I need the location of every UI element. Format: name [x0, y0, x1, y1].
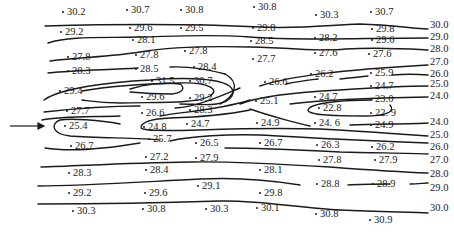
point-value: 27.7 — [71, 105, 89, 116]
data-point: 27.9 — [195, 153, 218, 164]
point-value: 24.8 — [148, 121, 166, 132]
point-marker-icon — [205, 208, 207, 210]
point-value: 30.8 — [147, 203, 165, 214]
contour-level-label: 24.0 — [430, 91, 448, 102]
point-value: 29.1 — [202, 180, 220, 191]
data-point: 29.4 — [59, 86, 82, 97]
point-value: 23.0 — [375, 93, 393, 104]
data-point: 29.8 — [371, 24, 394, 35]
point-value: 30.7 — [131, 4, 149, 15]
point-value: 29.6 — [134, 22, 152, 33]
point-value: 29.8 — [257, 22, 275, 33]
point-value: 29.6 — [376, 34, 394, 45]
point-marker-icon — [371, 146, 373, 148]
data-point: 30.8 — [315, 209, 338, 220]
point-value: 24.7 — [375, 80, 393, 91]
point-value: 29.2 — [65, 26, 83, 37]
point-marker-icon — [314, 96, 316, 98]
point-value: 28.4 — [198, 61, 216, 72]
point-value: 22. 9 — [375, 107, 396, 118]
point-marker-icon — [252, 58, 254, 60]
data-point: 26.3 — [316, 140, 339, 151]
point-value: 30.8 — [320, 208, 338, 219]
data-point: 29.1 — [197, 181, 220, 192]
point-value: 28.1 — [264, 164, 282, 175]
data-point: 30.7 — [370, 7, 393, 18]
data-point: 24.7 — [370, 81, 393, 92]
point-marker-icon — [259, 169, 261, 171]
point-value: 29.4 — [64, 85, 82, 96]
point-marker-icon — [145, 169, 147, 171]
point-value: 28.2 — [319, 32, 337, 43]
point-value: 31.5 — [156, 75, 174, 86]
point-marker-icon — [256, 207, 258, 209]
point-value: 26.6 — [146, 107, 164, 118]
point-value: 24.7 — [191, 118, 209, 129]
point-value: 26.7 — [264, 137, 282, 148]
point-marker-icon — [370, 124, 372, 126]
data-point: 28.2 — [314, 33, 337, 44]
data-point: 24.7 — [186, 119, 209, 130]
point-value: 29.2 — [73, 187, 91, 198]
data-point: 22.8 — [318, 103, 341, 114]
point-value: 25.9 — [375, 67, 393, 78]
contour-level-label: 27.0 — [430, 155, 448, 166]
point-value: 30.7 — [375, 6, 393, 17]
data-point: 24.8 — [143, 122, 166, 133]
contour-level-label: 29.0 — [430, 183, 448, 194]
point-marker-icon — [310, 73, 312, 75]
data-point: 26.6 — [264, 77, 287, 88]
point-value: 26.3 — [321, 139, 339, 150]
point-value: 22.8 — [323, 102, 341, 113]
point-marker-icon — [318, 107, 320, 109]
data-point: 29.5 — [180, 23, 203, 34]
point-marker-icon — [252, 27, 254, 29]
point-marker-icon — [143, 126, 145, 128]
data-point: 30.2 — [62, 7, 85, 18]
data-point: 27.9 — [374, 155, 397, 166]
point-marker-icon — [314, 122, 316, 124]
data-point: 30.8 — [142, 204, 165, 215]
point-value: 27.2 — [150, 151, 168, 162]
data-point: 29.8 — [259, 188, 282, 199]
point-value: 30.2 — [67, 6, 85, 17]
data-point: 29.8 — [252, 23, 275, 34]
point-value: 28.3 — [194, 104, 212, 115]
point-marker-icon — [126, 9, 128, 11]
data-point: 27.7 — [66, 106, 89, 117]
point-value: 26.6 — [269, 76, 287, 87]
point-marker-icon — [141, 96, 143, 98]
point-marker-icon — [186, 123, 188, 125]
point-value: 27.6 — [319, 47, 337, 58]
data-point: 28.3 — [189, 105, 212, 116]
point-value: 28.1 — [137, 34, 155, 45]
point-marker-icon — [369, 219, 371, 221]
point-value: 28.4 — [150, 164, 168, 175]
point-value: 24.9 — [375, 119, 393, 130]
data-point: 24.7 — [314, 92, 337, 103]
point-marker-icon — [68, 172, 70, 174]
point-marker-icon — [370, 72, 372, 74]
data-point: 28.3 — [68, 168, 91, 179]
data-point: 28.3 — [67, 66, 90, 77]
point-marker-icon — [316, 183, 318, 185]
point-marker-icon — [189, 109, 191, 111]
point-value: 30.3 — [210, 203, 228, 214]
point-marker-icon — [180, 9, 182, 11]
data-point: 30.8 — [180, 5, 203, 16]
data-point: 28.1 — [259, 165, 282, 176]
point-marker-icon — [67, 56, 69, 58]
point-marker-icon — [142, 208, 144, 210]
data-point: 25.4 — [64, 121, 87, 132]
point-marker-icon — [60, 31, 62, 33]
data-point: 28.8 — [316, 179, 339, 190]
data-point: 29.6 — [144, 188, 167, 199]
data-point: 27.8 — [318, 155, 341, 166]
point-marker-icon — [370, 98, 372, 100]
point-marker-icon — [370, 85, 372, 87]
data-point: 29.6 — [371, 35, 394, 46]
data-point: 26.7 — [259, 138, 282, 149]
point-marker-icon — [141, 112, 143, 114]
point-marker-icon — [259, 142, 261, 144]
point-value: 26.2 — [315, 68, 333, 79]
